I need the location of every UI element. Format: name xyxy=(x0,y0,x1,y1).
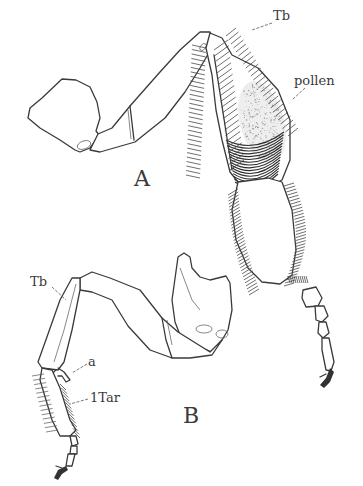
stipple-dot xyxy=(257,114,258,115)
hair-stroke xyxy=(295,222,305,225)
hair-stroke xyxy=(187,157,201,160)
hair-stroke xyxy=(188,121,202,124)
stipple-dot xyxy=(277,109,278,110)
stipple-dot xyxy=(266,154,267,155)
stipple-dot xyxy=(273,119,274,120)
stipple-dot xyxy=(251,133,252,134)
stipple-dot xyxy=(252,86,253,87)
panel-b: Tb a 1Tar B xyxy=(30,253,232,480)
stipple-dot xyxy=(249,113,250,114)
stipple-dot xyxy=(263,87,264,88)
hair-stroke xyxy=(296,235,306,238)
stipple-dot xyxy=(255,115,256,116)
hair-stroke xyxy=(287,192,297,195)
stipple-dot xyxy=(257,104,258,105)
stipple-dot xyxy=(246,106,247,107)
stipple-dot xyxy=(247,86,248,87)
hair-stroke xyxy=(306,276,308,283)
stipple-dot xyxy=(273,108,274,109)
stipple-dot xyxy=(253,91,254,92)
stipple-dot xyxy=(274,119,275,120)
stipple-dot xyxy=(246,136,247,137)
panel-a-letter: A xyxy=(133,166,151,191)
stipple-dot xyxy=(274,130,275,131)
stipple-dot xyxy=(269,132,270,133)
hair-stroke xyxy=(296,238,306,241)
stipple-dot xyxy=(282,128,283,129)
stipple-dot xyxy=(275,131,276,132)
stipple-dot xyxy=(249,130,250,131)
stipple-dot xyxy=(272,129,273,130)
stipple-dot xyxy=(262,123,263,124)
stipple-dot xyxy=(255,102,256,103)
stipple-dot xyxy=(275,126,276,127)
hair-stroke xyxy=(190,94,204,97)
stipple-dot xyxy=(249,96,250,97)
stipple-dot xyxy=(249,118,250,119)
stipple-dot xyxy=(256,122,257,123)
stipple-dot xyxy=(248,127,249,128)
stipple-dot xyxy=(273,134,274,135)
stipple-dot xyxy=(276,129,277,130)
panel-a-tarsal-segments xyxy=(302,287,334,388)
stipple-dot xyxy=(275,118,276,119)
panel-a-pollen-leader xyxy=(292,88,305,100)
stipple-dot xyxy=(277,123,278,124)
stipple-dot xyxy=(254,92,255,93)
stipple-dot xyxy=(266,112,267,113)
stipple-dot xyxy=(269,147,270,148)
stipple-dot xyxy=(244,117,245,118)
stipple-dot xyxy=(255,126,256,127)
hair-stroke xyxy=(290,201,300,204)
panel-a-label-pollen: pollen xyxy=(294,73,335,88)
stipple-dot xyxy=(251,110,252,111)
stipple-dot xyxy=(253,116,254,117)
hair-stroke xyxy=(186,171,200,174)
panel-b-tar-leader xyxy=(70,399,88,404)
stipple-dot xyxy=(274,116,275,117)
panel-a-tb-leader xyxy=(252,23,272,30)
stipple-dot xyxy=(250,132,251,133)
stipple-dot xyxy=(259,99,260,100)
stipple-dot xyxy=(260,108,261,109)
stipple-dot xyxy=(248,138,249,139)
stipple-dot xyxy=(270,100,271,101)
hair-stroke xyxy=(246,280,256,286)
panel-a-claw xyxy=(320,368,334,388)
stipple-dot xyxy=(250,116,251,117)
stipple-dot xyxy=(272,136,273,137)
panel-b-label-a: a xyxy=(88,354,96,369)
hair-stroke xyxy=(302,276,304,283)
hair-stroke xyxy=(190,99,204,102)
hair-stroke xyxy=(285,186,295,189)
stipple-dot xyxy=(266,105,267,106)
stipple-dot xyxy=(265,100,266,101)
leg-diagram: Tb pollen A Tb a xyxy=(0,0,363,486)
stipple-dot xyxy=(246,96,247,97)
stipple-dot xyxy=(246,93,247,94)
stipple-dot xyxy=(258,134,259,135)
hair-stroke xyxy=(304,276,306,283)
stipple-dot xyxy=(254,111,255,112)
hair-stroke xyxy=(187,144,201,147)
panel-b-label-tar: 1Tar xyxy=(90,390,121,405)
stipple-dot xyxy=(260,115,261,116)
stipple-dot xyxy=(252,105,253,106)
stipple-dot xyxy=(265,124,266,125)
stipple-dot xyxy=(242,123,243,124)
hair-stroke xyxy=(292,207,302,210)
stipple-dot xyxy=(267,101,268,102)
stipple-dot xyxy=(260,131,261,132)
stipple-dot xyxy=(249,123,250,124)
hair-stroke xyxy=(248,286,258,292)
stipple-dot xyxy=(265,113,266,114)
stipple-dot xyxy=(277,118,278,119)
stipple-dot xyxy=(257,126,258,127)
stipple-dot xyxy=(247,131,248,132)
stipple-dot xyxy=(248,101,249,102)
stipple-dot xyxy=(250,115,251,116)
stipple-dot xyxy=(252,87,253,88)
stipple-dot xyxy=(272,133,273,134)
hair-stroke xyxy=(189,117,203,120)
stipple-dot xyxy=(246,125,247,126)
